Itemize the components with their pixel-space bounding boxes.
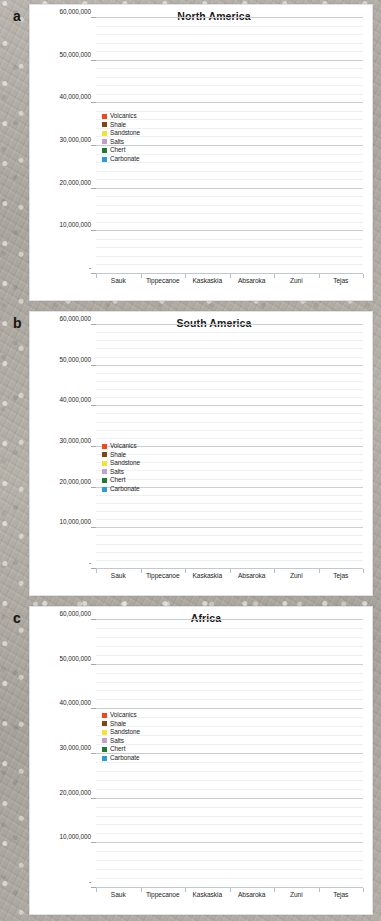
y-axis-tick-label: 60,000,000 xyxy=(60,610,92,617)
bar-slot xyxy=(230,18,275,274)
legend-item-shale[interactable]: Shale xyxy=(102,452,140,458)
legend-swatch-icon xyxy=(102,738,107,743)
x-axis-label: Zuni xyxy=(274,572,319,579)
legend-item-sandstone[interactable]: Sandstone xyxy=(102,130,140,136)
legend-label: Carbonate xyxy=(110,486,139,492)
legend-item-chert[interactable]: Chert xyxy=(102,477,140,483)
x-axis-label: Tejas xyxy=(319,891,364,898)
bar-slot xyxy=(319,620,364,888)
legend-label: Shale xyxy=(110,721,126,727)
x-axis-tick-mark xyxy=(141,274,142,278)
x-axis-label: Tippecanoe xyxy=(141,891,186,898)
legend-label: Salts xyxy=(110,738,124,744)
y-axis-tick-label: 60,000,000 xyxy=(60,315,92,322)
x-axis-tick-mark xyxy=(230,888,231,892)
x-axis-labels-c: SaukTippecanoeKaskaskiaAbsarokaZuniTejas xyxy=(96,888,363,898)
legend-swatch-icon xyxy=(102,756,107,761)
x-axis-tick-mark xyxy=(141,569,142,573)
y-axis-tick-mark xyxy=(91,708,96,709)
legend-item-sandstone[interactable]: Sandstone xyxy=(102,729,140,735)
bar-slot xyxy=(185,18,230,274)
y-axis-tick-mark xyxy=(91,446,96,447)
legend-item-carbonate[interactable]: Carbonate xyxy=(102,755,140,761)
legend-label: Salts xyxy=(110,139,124,145)
x-axis-labels-a: SaukTippecanoeKaskaskiaAbsarokaZuniTejas xyxy=(96,274,363,284)
x-axis-tick-mark xyxy=(96,274,97,278)
y-axis-tick-label: 10,000,000 xyxy=(60,221,92,228)
legend-item-shale[interactable]: Shale xyxy=(102,721,140,727)
y-axis-tick-label: 40,000,000 xyxy=(60,699,92,706)
plot-area-africa: Africa SaukTippecanoeKaskaskiaAbsarokaZu… xyxy=(29,606,373,915)
y-axis-tick-mark xyxy=(91,798,96,799)
y-axis-tick-label: 60,000,000 xyxy=(60,8,92,15)
legend-c: VolcanicsShaleSandstoneSaltsChertCarbona… xyxy=(102,712,140,764)
legend-item-carbonate[interactable]: Carbonate xyxy=(102,486,140,492)
legend-label: Salts xyxy=(110,469,124,475)
y-axis-tick-mark xyxy=(91,102,96,103)
y-axis-tick-mark xyxy=(91,568,96,569)
x-axis-tick-mark xyxy=(274,569,275,573)
legend-item-volcanics[interactable]: Volcanics xyxy=(102,712,140,718)
x-axis-labels-b: SaukTippecanoeKaskaskiaAbsarokaZuniTejas xyxy=(96,569,363,579)
legend-swatch-icon xyxy=(102,444,107,449)
legend-swatch-icon xyxy=(102,157,107,162)
legend-item-volcanics[interactable]: Volcanics xyxy=(102,113,140,119)
legend-item-salts[interactable]: Salts xyxy=(102,738,140,744)
y-axis-tick-label: 20,000,000 xyxy=(60,178,92,185)
legend-item-carbonate[interactable]: Carbonate xyxy=(102,156,140,162)
x-axis-tick-mark xyxy=(363,888,364,892)
x-axis-label: Sauk xyxy=(96,572,141,579)
bar-slot xyxy=(230,325,275,569)
y-axis-tick-mark xyxy=(91,365,96,366)
y-axis-tick-label: 10,000,000 xyxy=(60,518,92,525)
legend-item-sandstone[interactable]: Sandstone xyxy=(102,460,140,466)
legend-label: Sandstone xyxy=(110,460,140,466)
x-axis-tick-mark xyxy=(274,274,275,278)
legend-label: Sandstone xyxy=(110,130,140,136)
y-axis-tick-label: - xyxy=(89,559,91,566)
legend-label: Carbonate xyxy=(110,755,139,761)
y-axis-tick-mark xyxy=(91,273,96,274)
y-axis-tick-mark xyxy=(91,753,96,754)
x-axis-tick-mark xyxy=(230,274,231,278)
bar-slot xyxy=(230,620,275,888)
legend-item-salts[interactable]: Salts xyxy=(102,469,140,475)
y-axis-tick-mark xyxy=(91,145,96,146)
x-axis-tick-mark xyxy=(363,274,364,278)
legend-item-shale[interactable]: Shale xyxy=(102,122,140,128)
x-axis-label: Absaroka xyxy=(230,891,275,898)
legend-label: Chert xyxy=(110,477,125,483)
panel-letter-a: a xyxy=(13,8,21,24)
y-axis-tick-mark xyxy=(91,842,96,843)
panel-letter-c: c xyxy=(13,610,21,626)
panel-a: a North America SaukTippecanoeKaskaskiaA… xyxy=(0,0,381,307)
bar-slot xyxy=(185,620,230,888)
legend-swatch-icon xyxy=(102,713,107,718)
y-axis-tick-mark xyxy=(91,405,96,406)
legend-label: Shale xyxy=(110,122,126,128)
y-axis-tick-mark xyxy=(91,60,96,61)
bar-slot xyxy=(141,18,186,274)
legend-item-chert[interactable]: Chert xyxy=(102,746,140,752)
legend-item-salts[interactable]: Salts xyxy=(102,139,140,145)
plot-area-north-america: North America SaukTippecanoeKaskaskiaAbs… xyxy=(29,4,373,301)
legend-label: Volcanics xyxy=(110,113,137,119)
x-axis-label: Kaskaskia xyxy=(185,277,230,284)
legend-item-chert[interactable]: Chert xyxy=(102,147,140,153)
x-axis-tick-mark xyxy=(185,274,186,278)
y-axis-tick-mark xyxy=(91,230,96,231)
legend-swatch-icon xyxy=(102,721,107,726)
legend-item-volcanics[interactable]: Volcanics xyxy=(102,443,140,449)
y-axis-tick-mark xyxy=(91,527,96,528)
x-axis-tick-mark xyxy=(141,888,142,892)
x-axis-tick-mark xyxy=(96,888,97,892)
x-axis-tick-mark xyxy=(319,274,320,278)
legend-a: VolcanicsShaleSandstoneSaltsChertCarbona… xyxy=(102,113,140,165)
x-axis-label: Tejas xyxy=(319,277,364,284)
x-axis-label: Absaroka xyxy=(230,572,275,579)
legend-swatch-icon xyxy=(102,478,107,483)
legend-label: Volcanics xyxy=(110,712,137,718)
panel-b: b South America SaukTippecanoeKaskaskiaA… xyxy=(0,307,381,602)
y-axis-tick-mark xyxy=(91,619,96,620)
legend-label: Carbonate xyxy=(110,156,139,162)
